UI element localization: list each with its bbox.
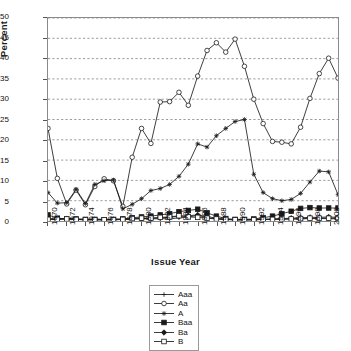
legend-label: B	[178, 337, 183, 346]
x-axis-tick-label: 1976	[107, 207, 115, 225]
legend-item-baa[interactable]: Baa	[153, 318, 192, 327]
x-axis-tick	[273, 222, 274, 226]
x-axis-tick-label: 1972	[69, 207, 77, 225]
x-axis-tick	[198, 222, 199, 226]
legend-item-ba[interactable]: Ba	[153, 328, 192, 337]
x-axis-tick-label: 1996	[295, 207, 303, 225]
legend-label: Aa	[178, 299, 188, 308]
x-axis-tick-label: 1990	[239, 207, 247, 225]
legend-item-b[interactable]: B	[153, 337, 192, 346]
x-axis-tick-label: 1978	[126, 207, 134, 225]
x-axis-tick	[217, 222, 218, 226]
legend-label: Aaa	[178, 290, 192, 299]
x-axis-tick-label: 1998	[314, 207, 322, 225]
legend-label: Baa	[178, 318, 192, 327]
legend-item-aa[interactable]: Aa	[153, 299, 192, 308]
x-axis-tick-label: 1982	[164, 207, 172, 225]
x-axis-tick-label: 1994	[277, 207, 285, 225]
x-axis-tick-label: 1980	[145, 207, 153, 225]
x-axis-tick-label: 1970	[51, 207, 59, 225]
x-axis-tick	[292, 222, 293, 226]
x-axis-tick-label: 1986	[201, 207, 209, 225]
x-axis-tick	[179, 222, 180, 226]
x-axis-tick	[235, 222, 236, 226]
x-axis-tick	[141, 222, 142, 226]
x-axis-tick-label: 1974	[88, 207, 96, 225]
legend-item-a[interactable]: A	[153, 309, 192, 318]
x-axis-tick-label: 1984	[182, 207, 190, 225]
legend-marker-aaa-icon	[153, 290, 175, 299]
x-axis-tick	[160, 222, 161, 226]
legend-marker-baa-icon	[153, 318, 175, 327]
x-axis-tick	[330, 222, 331, 226]
x-axis-tick	[47, 222, 48, 226]
chart-legend: AaaAaABaaBaB	[149, 285, 199, 351]
x-axis-tick	[122, 222, 123, 226]
legend-label: A	[178, 309, 183, 318]
legend-item-aaa[interactable]: Aaa	[153, 290, 192, 299]
legend-marker-aa-icon	[153, 299, 175, 308]
legend-marker-ba-icon	[153, 328, 175, 337]
x-axis-tick	[311, 222, 312, 226]
x-axis-tick	[66, 222, 67, 226]
x-axis-tick-label: 1992	[258, 207, 266, 225]
x-axis-tick-label: 1988	[220, 207, 228, 225]
x-axis-tick	[254, 222, 255, 226]
x-axis-title: Issue Year	[0, 256, 351, 267]
x-axis-tick-label: 2000	[333, 207, 341, 225]
legend-marker-b-icon	[153, 337, 175, 346]
legend-marker-a-icon	[153, 309, 175, 318]
x-axis-tick	[104, 222, 105, 226]
x-axis-tick	[85, 222, 86, 226]
legend-label: Ba	[178, 328, 188, 337]
